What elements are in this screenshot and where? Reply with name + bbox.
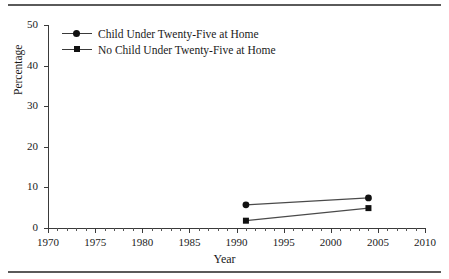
x-minor-tick <box>340 228 341 231</box>
x-tick-label: 1990 <box>226 235 248 249</box>
x-tick-label: 2000 <box>320 235 342 249</box>
legend-item-1[interactable]: No Child Under Twenty-Five at Home <box>62 42 276 57</box>
x-minor-tick <box>368 228 369 231</box>
x-tick-1995 <box>284 228 285 233</box>
x-minor-tick <box>246 228 247 231</box>
x-minor-tick <box>255 228 256 231</box>
x-minor-tick <box>274 228 275 231</box>
legend-marker <box>74 46 80 52</box>
legend: Child Under Twenty-Five at HomeNo Child … <box>62 26 276 58</box>
x-minor-tick <box>416 228 417 231</box>
x-minor-tick <box>57 228 58 231</box>
bottom-horizontal-rule <box>8 271 441 273</box>
x-tick-label: 1975 <box>84 235 106 249</box>
x-minor-tick <box>359 228 360 231</box>
data-point <box>243 218 249 224</box>
legend-label: No Child Under Twenty-Five at Home <box>98 43 276 57</box>
x-minor-tick <box>67 228 68 231</box>
x-minor-tick <box>123 228 124 231</box>
x-tick-1975 <box>95 228 96 233</box>
x-minor-tick <box>387 228 388 231</box>
x-minor-tick <box>227 228 228 231</box>
y-tick-label: 10 <box>27 179 38 194</box>
x-minor-tick <box>76 228 77 231</box>
data-point <box>243 201 250 208</box>
legend-circle-marker-icon <box>62 28 92 40</box>
x-minor-tick <box>180 228 181 231</box>
legend-square-marker-icon <box>62 44 92 56</box>
y-tick-label: 40 <box>27 58 38 73</box>
x-tick-1985 <box>189 228 190 233</box>
x-tick-label: 1970 <box>37 235 59 249</box>
x-minor-tick <box>161 228 162 231</box>
x-tick-1970 <box>48 228 49 233</box>
x-axis-title: Year <box>0 252 449 267</box>
legend-label: Child Under Twenty-Five at Home <box>98 27 259 41</box>
x-minor-tick <box>152 228 153 231</box>
y-tick-label: 20 <box>27 139 38 154</box>
x-minor-tick <box>208 228 209 231</box>
x-tick-2010 <box>425 228 426 233</box>
x-minor-tick <box>293 228 294 231</box>
x-minor-tick <box>105 228 106 231</box>
x-tick-label: 2010 <box>414 235 436 249</box>
x-minor-tick <box>302 228 303 231</box>
legend-item-0[interactable]: Child Under Twenty-Five at Home <box>62 26 276 41</box>
data-point <box>365 205 371 211</box>
x-tick-1990 <box>237 228 238 233</box>
x-tick-label: 1995 <box>273 235 295 249</box>
x-minor-tick <box>133 228 134 231</box>
y-tick-label: 50 <box>27 17 38 32</box>
x-minor-tick <box>321 228 322 231</box>
x-tick-label: 1985 <box>178 235 200 249</box>
series-line-1 <box>246 208 369 221</box>
x-tick-label: 1980 <box>131 235 153 249</box>
y-tick-label: 30 <box>27 98 38 113</box>
data-point <box>365 195 372 202</box>
x-minor-tick <box>114 228 115 231</box>
top-horizontal-rule <box>8 4 441 6</box>
x-tick-2005 <box>378 228 379 233</box>
x-minor-tick <box>397 228 398 231</box>
x-minor-tick <box>350 228 351 231</box>
x-minor-tick <box>199 228 200 231</box>
x-minor-tick <box>312 228 313 231</box>
legend-marker <box>73 30 80 37</box>
x-minor-tick <box>406 228 407 231</box>
y-axis-title: Percentage <box>12 45 24 95</box>
y-tick-label: 0 <box>33 220 39 235</box>
x-minor-tick <box>218 228 219 231</box>
x-minor-tick <box>86 228 87 231</box>
x-tick-label: 2005 <box>367 235 389 249</box>
figure-container: Percentage Year 01020304050 197019751980… <box>0 0 449 279</box>
series-line-0 <box>246 198 369 205</box>
x-minor-tick <box>265 228 266 231</box>
x-minor-tick <box>171 228 172 231</box>
x-tick-2000 <box>331 228 332 233</box>
x-tick-1980 <box>142 228 143 233</box>
